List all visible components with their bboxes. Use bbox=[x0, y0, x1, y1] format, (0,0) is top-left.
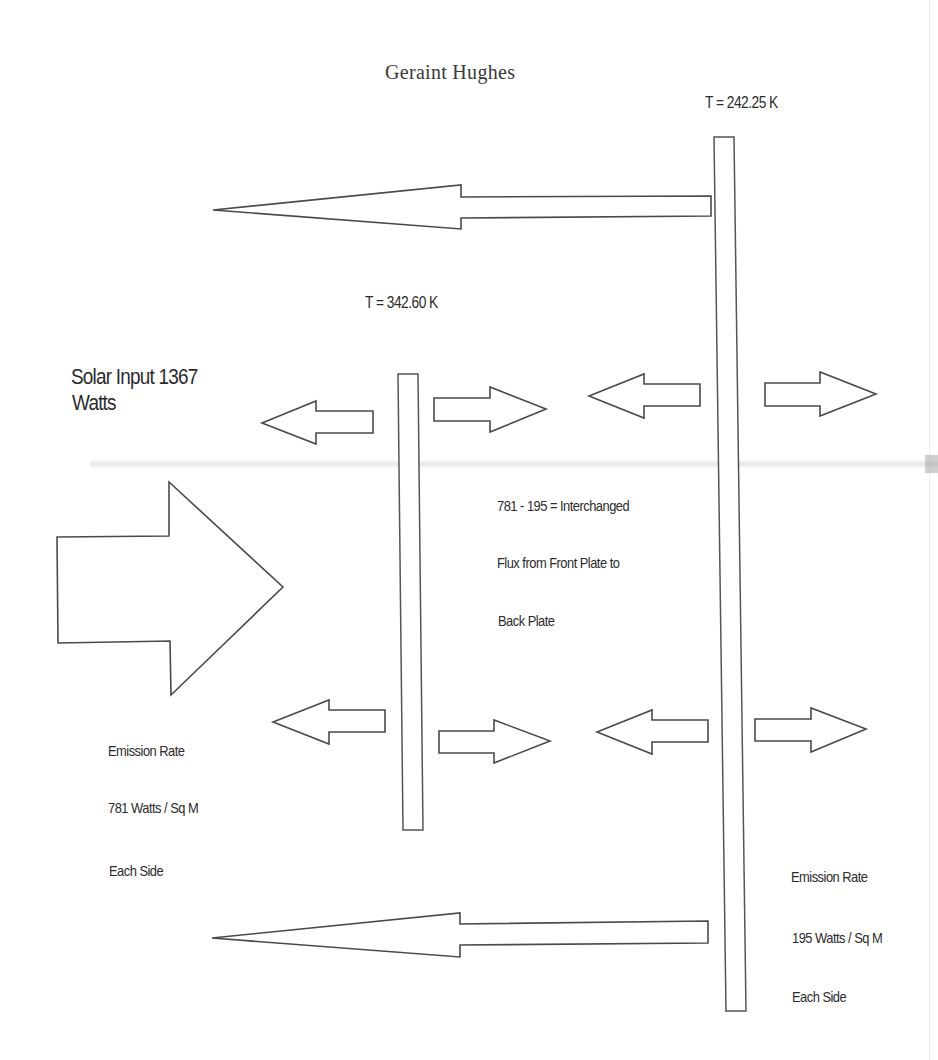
solar-input-label-line1: Solar Input 1367 bbox=[71, 364, 197, 390]
arrow-left-front-lower-icon bbox=[273, 700, 385, 744]
author-name: Geraint Hughes bbox=[385, 61, 515, 84]
solar-input-arrow-icon bbox=[57, 482, 283, 695]
interchange-note-line2: Flux from Front Plate to bbox=[497, 554, 619, 571]
diagram-canvas: Geraint Hughes T = 242.25 K T = 342.60 K… bbox=[0, 0, 938, 1060]
back-emission-rate-value: 195 Watts / Sq M bbox=[792, 929, 882, 946]
arrow-right-front-upper-icon bbox=[434, 387, 546, 432]
arrow-left-long-bottom-icon bbox=[212, 913, 708, 957]
front-plate-temperature: T = 342.60 K bbox=[365, 294, 438, 312]
arrow-left-back-upper-icon bbox=[589, 374, 700, 418]
front-emission-rate-value: 781 Watts / Sq M bbox=[108, 799, 198, 816]
interchange-note-line1: 781 - 195 = Interchanged bbox=[497, 497, 629, 514]
diagram-shapes bbox=[0, 0, 938, 1060]
arrow-left-front-upper-icon bbox=[262, 401, 373, 444]
arrow-left-back-lower-icon bbox=[597, 710, 708, 754]
back-emission-rate-title: Emission Rate bbox=[791, 868, 867, 885]
front-emission-rate-scope: Each Side bbox=[109, 862, 163, 879]
interchange-note-line3: Back Plate bbox=[498, 612, 555, 629]
back-plate bbox=[714, 137, 746, 1011]
front-plate bbox=[398, 374, 423, 830]
front-emission-rate-title: Emission Rate bbox=[108, 742, 184, 759]
back-plate-temperature: T = 242.25 K bbox=[705, 94, 778, 112]
solar-input-label-line2: Watts bbox=[72, 390, 116, 416]
back-emission-rate-scope: Each Side bbox=[792, 988, 846, 1005]
arrow-right-back-upper-icon bbox=[765, 372, 876, 416]
arrow-left-long-top-icon bbox=[213, 185, 711, 229]
arrow-right-front-lower-icon bbox=[439, 720, 550, 763]
arrow-right-back-lower-icon bbox=[755, 708, 866, 752]
